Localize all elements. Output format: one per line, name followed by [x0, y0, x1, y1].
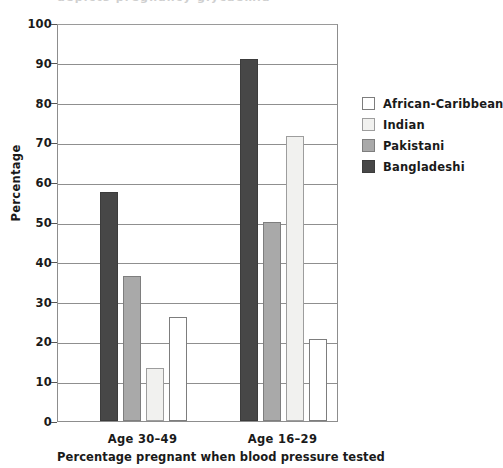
legend-label: Pakistani [383, 139, 445, 153]
y-axis-tick-marks [0, 24, 60, 422]
x-axis-caption: Percentage pregnant when blood pressure … [57, 450, 338, 464]
legend-item: African-Caribbean [362, 93, 503, 114]
legend-label: Bangladeshi [383, 160, 465, 174]
legend-item: Indian [362, 114, 503, 135]
legend-swatch-icon [362, 118, 375, 131]
legend-label: African-Caribbean [383, 97, 503, 111]
bar [100, 192, 118, 421]
bar [123, 276, 141, 421]
legend-swatch-icon [362, 97, 375, 110]
legend-label: Indian [383, 118, 425, 132]
plot-area [57, 24, 338, 422]
bar [286, 136, 304, 421]
bar [169, 317, 187, 421]
legend-item: Bangladeshi [362, 156, 503, 177]
bars-layer [58, 25, 337, 421]
bar [309, 339, 327, 421]
legend-item: Pakistani [362, 135, 503, 156]
legend-swatch-icon [362, 139, 375, 152]
x-axis-group-label: Age 30–49 [83, 432, 203, 446]
chart-legend: African-CaribbeanIndianPakistaniBanglade… [362, 93, 503, 177]
legend-swatch-icon [362, 160, 375, 173]
bar [263, 222, 281, 421]
bar [146, 368, 164, 421]
x-axis-group-label: Age 16–29 [223, 432, 343, 446]
bar [240, 59, 258, 421]
